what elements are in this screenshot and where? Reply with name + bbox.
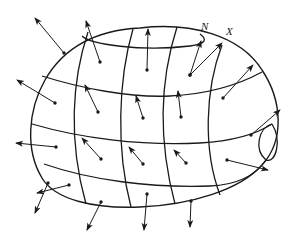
normal-arrow [82, 138, 101, 159]
normal-arrow [35, 18, 64, 53]
normal-arrow [87, 202, 101, 230]
base-point-dot [46, 181, 49, 184]
normal-arrow [129, 147, 143, 164]
base-point-dot [62, 51, 65, 54]
base-point-dot [179, 115, 182, 118]
base-point-dot [188, 73, 191, 76]
base-point-dot [53, 101, 56, 104]
base-point-dot [141, 162, 144, 165]
normal-vectors [16, 18, 280, 230]
base-point-dot [249, 133, 252, 136]
base-point-dot [54, 145, 57, 148]
normal-arrow [37, 185, 69, 193]
normal-arrow [144, 194, 147, 230]
normal-arrow [174, 150, 186, 163]
normal-arrow [86, 21, 100, 62]
base-point-dot [221, 96, 224, 99]
base-point-dot [67, 183, 70, 186]
normal-arrow [147, 29, 148, 70]
base-point-dot [189, 199, 192, 202]
label-vector-x: X [226, 25, 233, 37]
longitude-line-3 [163, 27, 177, 204]
base-point-dot [225, 158, 228, 161]
longitude-line-4 [208, 45, 222, 195]
base-point-dot [145, 68, 148, 71]
normal-arrow [190, 201, 191, 227]
longitude-line-1 [74, 32, 88, 204]
normal-arrow [223, 65, 253, 98]
longitude-line-2 [121, 29, 133, 207]
base-point-dot [184, 161, 187, 164]
base-point-dot [145, 192, 148, 195]
base-point-dot [99, 200, 102, 203]
surface-normal-diagram [0, 0, 292, 246]
latitude-line-2 [32, 124, 272, 144]
base-point-dot [98, 60, 101, 63]
base-point-dot [141, 116, 144, 119]
top-cap-curve [82, 34, 204, 48]
base-point-dot [96, 110, 99, 113]
label-normal-n: N [201, 20, 208, 32]
base-point-dot [99, 157, 102, 160]
normal-arrow [136, 96, 143, 118]
normal-arrow [35, 183, 48, 213]
normal-arrow [16, 143, 56, 147]
